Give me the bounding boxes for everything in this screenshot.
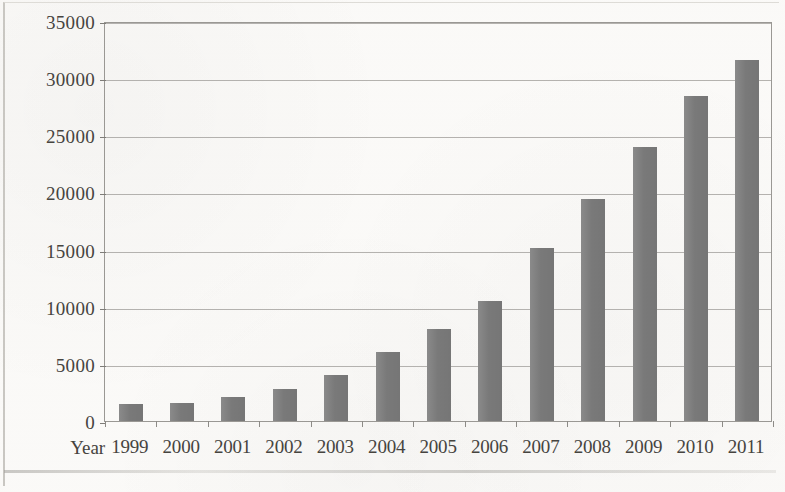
y-axis-tick-label: 35000	[0, 13, 95, 32]
plot-area	[104, 22, 772, 422]
x-axis-tick-label: 2008	[574, 437, 611, 456]
y-axis-tick-label: 15000	[0, 242, 95, 261]
y-axis-tick-label: 25000	[0, 127, 95, 146]
gridline	[105, 252, 771, 253]
x-axis-tick-label: 2007	[522, 437, 559, 456]
x-axis-tick	[465, 421, 466, 427]
x-axis-tick	[105, 421, 106, 427]
x-axis-tick-label: 2006	[471, 437, 508, 456]
y-axis-tick	[100, 80, 106, 81]
bar	[530, 248, 554, 421]
gridline	[105, 194, 771, 195]
gridline	[105, 80, 771, 81]
x-axis-tick	[413, 421, 414, 427]
scan-bottom-rule	[4, 470, 776, 473]
y-axis-tick	[100, 194, 106, 195]
x-axis-tick	[311, 421, 312, 427]
y-axis-tick	[100, 252, 106, 253]
bar	[221, 397, 245, 421]
x-axis-tick-labels: Year 19992000200120022003200420052006200…	[0, 437, 785, 465]
y-axis-tick	[100, 309, 106, 310]
x-axis-title: Year	[70, 437, 105, 459]
x-axis-tick-label: 2005	[420, 437, 457, 456]
x-axis-tick-label: 2003	[317, 437, 354, 456]
x-axis-tick-label: 2009	[625, 437, 662, 456]
bar	[684, 96, 708, 421]
bar	[427, 329, 451, 421]
y-axis-tick-label: 0	[0, 413, 95, 432]
bar	[273, 389, 297, 421]
bar	[170, 403, 194, 421]
x-axis-tick	[362, 421, 363, 427]
y-axis-tick-label: 30000	[0, 70, 95, 89]
x-axis-tick-label: 2000	[163, 437, 200, 456]
x-axis-tick-label: 2002	[265, 437, 302, 456]
x-axis-tick	[722, 421, 723, 427]
x-axis-tick	[156, 421, 157, 427]
x-axis-tick	[208, 421, 209, 427]
bar	[478, 301, 502, 421]
bar	[324, 375, 348, 421]
y-axis-tick-label: 5000	[0, 356, 95, 375]
x-axis-tick	[567, 421, 568, 427]
bar	[735, 60, 759, 421]
y-axis-tick	[100, 23, 106, 24]
gridline	[105, 23, 771, 24]
x-axis-tick	[773, 421, 774, 427]
bar	[119, 404, 143, 421]
x-axis-tick-label: 2004	[368, 437, 405, 456]
bar	[376, 352, 400, 421]
x-axis-tick-label: 1999	[111, 437, 148, 456]
y-axis-tick	[100, 137, 106, 138]
gridline	[105, 309, 771, 310]
y-axis-tick-label: 20000	[0, 184, 95, 203]
y-axis-tick-label: 10000	[0, 299, 95, 318]
x-axis-tick	[259, 421, 260, 427]
gridline	[105, 137, 771, 138]
x-axis-tick-label: 2010	[676, 437, 713, 456]
x-axis-tick	[516, 421, 517, 427]
x-axis-tick-label: 2011	[728, 437, 765, 456]
x-axis-tick	[619, 421, 620, 427]
bar	[581, 199, 605, 421]
x-axis-tick	[670, 421, 671, 427]
chart-page: 05000100001500020000250003000035000 Year…	[0, 0, 785, 492]
x-axis-tick-label: 2001	[214, 437, 251, 456]
y-axis-tick	[100, 366, 106, 367]
bar	[633, 147, 657, 421]
